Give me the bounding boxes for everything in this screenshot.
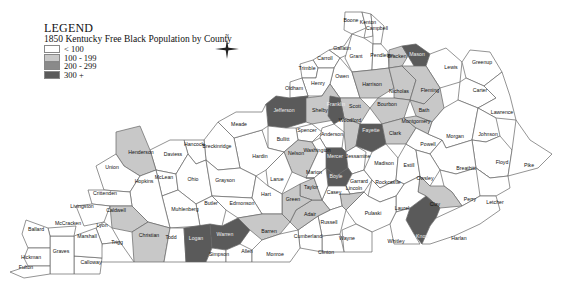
county-label: Harlan bbox=[451, 235, 466, 241]
svg-text:N: N bbox=[225, 33, 229, 38]
county-label: Gallatin bbox=[333, 45, 351, 51]
county-label: Boyle bbox=[330, 173, 343, 179]
county-label: Warren bbox=[217, 231, 234, 237]
county-label: Whitley bbox=[387, 238, 404, 244]
county-label: Bracken bbox=[387, 53, 406, 59]
county-mccracken bbox=[48, 226, 76, 236]
county-graves bbox=[50, 236, 74, 274]
county-layer: BooneKentonCampbellGallatinCarrollTrimbl… bbox=[10, 12, 552, 278]
county-label: Ballard bbox=[28, 226, 44, 232]
county-label: Livingston bbox=[70, 203, 93, 209]
county-label: Fulton bbox=[19, 264, 34, 270]
county-label: Larue bbox=[270, 176, 283, 182]
county-label: Wayne bbox=[339, 235, 355, 241]
county-label: Mason bbox=[409, 51, 425, 57]
county-label: Taylor bbox=[304, 184, 318, 190]
county-label: Lyon bbox=[96, 222, 107, 228]
county-label: Bullitt bbox=[277, 136, 290, 142]
county-label: Campbell bbox=[366, 25, 388, 31]
county-label: Pulaski bbox=[365, 210, 382, 216]
county-label: Fleming bbox=[421, 87, 440, 93]
county-label: Clark bbox=[389, 130, 402, 136]
county-label: Montgomery bbox=[402, 118, 431, 124]
county-label: Cumberland bbox=[294, 233, 322, 239]
county-label: Bath bbox=[419, 107, 430, 113]
county-label: Hardin bbox=[252, 153, 267, 159]
county-label: Allen bbox=[241, 248, 253, 254]
county-label: Breckinridge bbox=[203, 143, 232, 149]
compass-rose-icon: N bbox=[215, 33, 239, 59]
county-label: Pike bbox=[524, 162, 534, 168]
county-label: Lincoln bbox=[346, 185, 363, 191]
county-label: Henry bbox=[311, 80, 325, 86]
county-label: Adair bbox=[304, 211, 316, 217]
county-label: Barren bbox=[261, 228, 277, 234]
county-label: Ohio bbox=[188, 176, 199, 182]
county-label: Christian bbox=[139, 232, 160, 238]
county-label: Monroe bbox=[266, 251, 284, 257]
county-label: Calloway bbox=[80, 259, 101, 265]
county-label: Spencer bbox=[297, 127, 317, 133]
county-label: Oldham bbox=[285, 85, 303, 91]
county-label: Grant bbox=[350, 53, 364, 59]
county-label: McCracken bbox=[55, 220, 81, 226]
county-label: Harrison bbox=[362, 81, 382, 87]
county-label: Lewis bbox=[444, 64, 458, 70]
county-label: Clinton bbox=[318, 249, 334, 255]
county-label: Hopkins bbox=[135, 178, 154, 184]
county-label: Owsley bbox=[416, 175, 433, 181]
county-label: Hickman bbox=[21, 254, 41, 260]
county-label: Morgan bbox=[446, 133, 464, 139]
county-label: Crittenden bbox=[93, 190, 117, 196]
county-label: Greenup bbox=[472, 59, 492, 65]
county-label: Anderson bbox=[321, 131, 343, 137]
county-label: Estill bbox=[404, 162, 415, 168]
county-label: Powell bbox=[420, 141, 435, 147]
county-label: Caldwell bbox=[106, 207, 126, 213]
county-label: Fayette bbox=[362, 127, 379, 133]
county-label: Logan bbox=[189, 235, 204, 241]
county-label: Floyd bbox=[496, 159, 509, 165]
county-label: Lawrence bbox=[491, 109, 514, 115]
county-label: Scott bbox=[349, 103, 361, 109]
county-label: McLean bbox=[155, 174, 174, 180]
county-label: Clay bbox=[430, 201, 441, 207]
county-label: Knox bbox=[416, 233, 428, 239]
county-label: Russell bbox=[320, 219, 337, 225]
county-label: Henderson bbox=[128, 149, 153, 155]
county-label: Letcher bbox=[486, 199, 504, 205]
county-logan bbox=[184, 224, 212, 262]
county-label: Graves bbox=[53, 248, 70, 254]
county-label: Woodford bbox=[339, 117, 362, 123]
county-label: Rockcastle bbox=[375, 179, 400, 185]
kentucky-county-map: N BooneKentonCampbellGallatinCarrollTrim… bbox=[0, 0, 581, 285]
county-label: Johnson bbox=[478, 131, 498, 137]
county-label: Simpson bbox=[209, 251, 229, 257]
county-label: Nelson bbox=[288, 150, 304, 156]
county-label: Hart bbox=[261, 191, 271, 197]
county-label: Jessamine bbox=[346, 153, 371, 159]
county-label: Jefferson bbox=[273, 107, 294, 113]
county-label: Shelby bbox=[312, 107, 328, 113]
county-label: Meade bbox=[231, 121, 247, 127]
county-label: Daviess bbox=[164, 151, 183, 157]
county-label: Franklin bbox=[327, 101, 346, 107]
county-trigg bbox=[100, 242, 134, 262]
county-label: Butler bbox=[204, 200, 218, 206]
county-label: Trigg bbox=[111, 239, 123, 245]
county-label: Union bbox=[105, 164, 119, 170]
county-label: Carter bbox=[473, 87, 488, 93]
county-label: Mercer bbox=[327, 153, 343, 159]
county-ballard bbox=[22, 220, 50, 248]
county-label: Casey bbox=[327, 189, 342, 195]
county-label: Garrard bbox=[350, 178, 368, 184]
county-label: Muhlenberg bbox=[171, 206, 199, 212]
county-label: Bourbon bbox=[377, 101, 397, 107]
county-label: Hancock bbox=[184, 141, 205, 147]
county-label: Owen bbox=[335, 73, 349, 79]
county-label: Todd bbox=[165, 234, 176, 240]
county-label: Perry bbox=[464, 196, 477, 202]
county-label: Boone bbox=[343, 17, 358, 23]
county-label: Edmonson bbox=[230, 200, 255, 206]
county-label: Carroll bbox=[317, 55, 332, 61]
